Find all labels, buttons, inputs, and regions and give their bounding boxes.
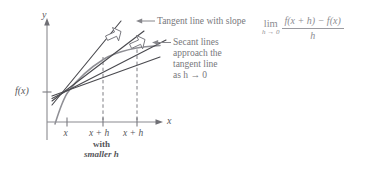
y-value-label-fx: f(x) (15, 85, 29, 97)
leader-arrow-tangent-icon (136, 19, 155, 24)
callout-secant-line-1: Secant lines (173, 37, 219, 48)
rotation-arrow-2-icon (130, 36, 146, 49)
derivative-secant-tangent-figure: y x f(x) x x + h x + h with smaller h Ta… (0, 0, 367, 173)
leader-arrow-secant-icon (152, 40, 171, 45)
limit-subscript: h → 0 (262, 29, 280, 37)
rotation-arrow-1-icon (106, 28, 122, 41)
secant-line-3 (52, 57, 160, 96)
callout-secant-line-3: tangent line (173, 59, 218, 70)
x-axis-label: x (167, 115, 171, 127)
x-axis (47, 119, 163, 125)
callout-secant-line-4: as h → 0 (173, 70, 207, 81)
callout-secant-line-2: approach the (173, 48, 222, 59)
y-axis-label: y (42, 9, 46, 21)
difference-quotient-denominator: h (282, 29, 344, 42)
callout-tangent-label: Tangent line with slope (157, 16, 246, 27)
limit-formula: lim h → 0 f(x + h) − f(x) h (262, 14, 344, 42)
difference-quotient: f(x + h) − f(x) h (282, 14, 344, 42)
x-tick-label-0: x (64, 128, 68, 139)
function-curve (55, 46, 160, 124)
x-tick-label-1: x + h (89, 128, 109, 139)
tick-note-line-2: smaller h (84, 149, 119, 160)
x-tick-label-2: x + h (123, 128, 143, 139)
difference-quotient-numerator: f(x + h) − f(x) (282, 14, 344, 29)
limit-operator: lim h → 0 (262, 18, 280, 37)
